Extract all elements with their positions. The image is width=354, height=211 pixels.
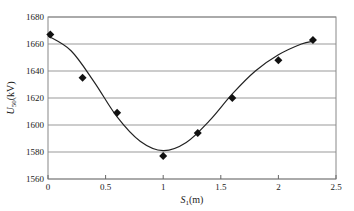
x-tick-label: 1.5 bbox=[215, 182, 227, 192]
y-tick-label: 1580 bbox=[26, 147, 45, 157]
y-tick-label: 1660 bbox=[26, 39, 45, 49]
x-tick-label: 1 bbox=[161, 182, 166, 192]
data-point-diamond bbox=[159, 152, 167, 160]
data-point-diamond bbox=[113, 109, 121, 117]
x-tick-label: 0.5 bbox=[100, 182, 112, 192]
y-tick-label: 1640 bbox=[26, 66, 45, 76]
y-axis-ticks: 1560158016001620164016601680 bbox=[26, 12, 45, 184]
gridlines bbox=[48, 17, 336, 179]
data-point-diamond bbox=[274, 56, 282, 64]
y-axis-label: U50(kV) bbox=[5, 81, 18, 114]
y-tick-label: 1680 bbox=[26, 12, 45, 22]
x-tick-label: 2 bbox=[276, 182, 281, 192]
y-tick-label: 1620 bbox=[26, 93, 45, 103]
x-tick-label: 0 bbox=[46, 182, 51, 192]
x-axis-ticks: 00.511.522.5 bbox=[46, 175, 342, 192]
y-tick-label: 1560 bbox=[26, 174, 45, 184]
y-tick-label: 1600 bbox=[26, 120, 45, 130]
data-point-diamond bbox=[309, 36, 317, 44]
data-point-diamond bbox=[228, 94, 236, 102]
data-point-diamond bbox=[79, 74, 87, 82]
data-points bbox=[46, 31, 317, 161]
fitted-curve bbox=[48, 36, 313, 151]
x-axis-label: S1(m) bbox=[181, 194, 204, 207]
x-tick-label: 2.5 bbox=[330, 182, 342, 192]
chart: 00.511.522.5 156015801600162016401660168… bbox=[0, 0, 354, 211]
